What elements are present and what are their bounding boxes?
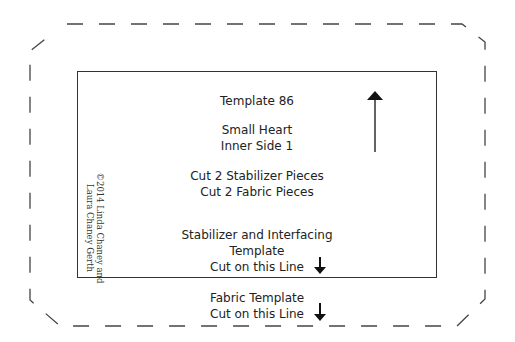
pattern-template-page: ©2014 Linda Chaney and Laura Chaney Gert… bbox=[0, 0, 515, 342]
arrow-down-icon bbox=[0, 0, 515, 342]
